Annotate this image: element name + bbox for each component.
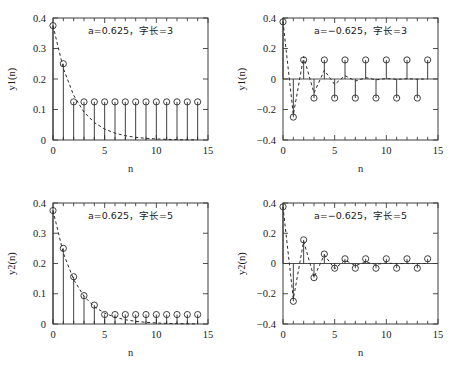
y-tick-label: 0.2 (33, 258, 46, 269)
y-tick-label: 0.1 (33, 104, 46, 115)
y-tick-label: 0.3 (33, 228, 46, 239)
y-tick-label: 0 (271, 258, 276, 269)
x-tick-label: 15 (433, 145, 444, 156)
x-tick-label: 10 (381, 329, 392, 340)
y-tick-label: −0.4 (257, 319, 277, 330)
x-tick-label: 5 (332, 329, 337, 340)
axes-box (53, 203, 208, 324)
x-tick-label: 0 (50, 145, 55, 156)
x-tick-label: 10 (381, 145, 392, 156)
y-tick-label: −0.2 (257, 104, 276, 115)
y-axis-label: y2(n) (6, 252, 18, 275)
plot-annotation: a=0.625，字长=3 (88, 25, 173, 36)
reference-curve (53, 211, 198, 324)
y-axis-label: y1(n) (236, 67, 248, 90)
y-tick-label: 0.4 (263, 13, 277, 24)
x-tick-label: 5 (332, 145, 337, 156)
x-tick-label: 0 (280, 329, 285, 340)
plot-svg-bottom-left: 05101500.10.20.30.4ny2(n)a=0.625，字长=5 (0, 185, 230, 369)
y-tick-label: 0.1 (33, 288, 46, 299)
x-tick-label: 5 (102, 329, 107, 340)
plot-annotation: a=−0.625，字长=3 (314, 25, 407, 36)
y-tick-label: 0.3 (33, 43, 46, 54)
x-tick-label: 15 (433, 329, 444, 340)
y-axis-label: y1(n) (6, 67, 18, 90)
y-tick-label: 0.4 (33, 198, 47, 209)
y-tick-label: 0 (271, 74, 276, 85)
y-tick-label: 0.2 (33, 74, 46, 85)
plot-panel-bottom-left: 05101500.10.20.30.4ny2(n)a=0.625，字长=5 (0, 185, 230, 369)
x-tick-label: 15 (203, 329, 214, 340)
plot-svg-bottom-right: 051015−0.4−0.200.20.4ny2(n)a=−0.625，字长=5 (230, 185, 460, 369)
x-tick-label: 10 (151, 145, 162, 156)
plot-panel-top-right: 051015−0.4−0.200.20.4ny1(n)a=−0.625，字长=3 (230, 0, 460, 185)
x-tick-label: 0 (280, 145, 285, 156)
plot-panel-bottom-right: 051015−0.4−0.200.20.4ny2(n)a=−0.625，字长=5 (230, 185, 460, 369)
x-tick-label: 0 (50, 329, 55, 340)
x-axis-label: n (358, 347, 364, 358)
x-tick-label: 15 (203, 145, 214, 156)
plot-svg-top-left: 05101500.10.20.30.4ny1(n)a=0.625，字长=3 (0, 0, 230, 185)
plot-annotation: a=0.625，字长=5 (88, 210, 173, 221)
figure-canvas: 05101500.10.20.30.4ny1(n)a=0.625，字长=3051… (0, 0, 460, 369)
y-tick-label: 0.4 (33, 13, 47, 24)
x-axis-label: n (358, 163, 364, 174)
y-tick-label: 0.2 (263, 228, 276, 239)
plot-svg-top-right: 051015−0.4−0.200.20.4ny1(n)a=−0.625，字长=3 (230, 0, 460, 185)
plot-panel-top-left: 05101500.10.20.30.4ny1(n)a=0.625，字长=3 (0, 0, 230, 185)
y-tick-label: 0.2 (263, 43, 276, 54)
x-tick-label: 5 (102, 145, 107, 156)
y-axis-label: y2(n) (236, 252, 248, 275)
x-axis-label: n (128, 347, 134, 358)
y-tick-label: 0 (41, 135, 46, 146)
x-axis-label: n (128, 163, 134, 174)
y-tick-label: −0.2 (257, 288, 276, 299)
y-tick-label: 0.4 (263, 198, 277, 209)
x-tick-label: 10 (151, 329, 162, 340)
plot-annotation: a=−0.625，字长=5 (314, 210, 407, 221)
y-tick-label: 0 (41, 319, 46, 330)
axes-box (53, 18, 208, 140)
y-tick-label: −0.4 (257, 135, 277, 146)
